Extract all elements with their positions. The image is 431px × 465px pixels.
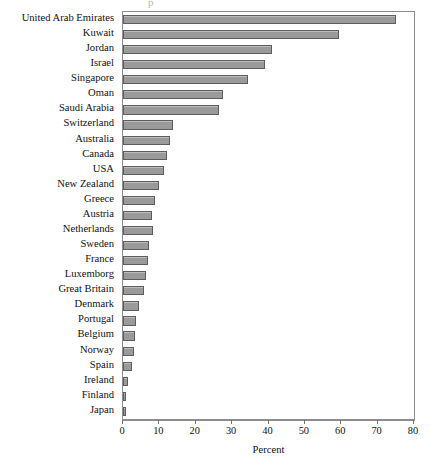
- category-label: Norway: [0, 345, 118, 356]
- axis-tick: [340, 420, 341, 424]
- bar: [123, 151, 167, 160]
- bar: [123, 15, 396, 24]
- category-label: United Arab Emirates: [0, 13, 118, 24]
- axis-tick-label: 40: [248, 425, 288, 436]
- category-label: Saudi Arabia: [0, 103, 118, 114]
- category-label: New Zealand: [0, 179, 118, 190]
- axis-tick: [231, 420, 232, 424]
- bar: [123, 316, 136, 325]
- bar: [123, 241, 149, 250]
- bar: [123, 30, 339, 39]
- category-label: Luxemborg: [0, 269, 118, 280]
- bar: [123, 407, 126, 416]
- axis-tick-label: 80: [393, 425, 431, 436]
- axis-tick-label: 30: [211, 425, 251, 436]
- category-label: Ireland: [0, 375, 118, 386]
- category-label: Great Britain: [0, 284, 118, 295]
- category-label: Switzerland: [0, 118, 118, 129]
- axis-line: [122, 420, 415, 421]
- bar: [123, 211, 152, 220]
- bar-chart: p United Arab EmiratesKuwaitJordanIsrael…: [0, 0, 431, 465]
- category-label: Kuwait: [0, 28, 118, 39]
- bar: [123, 105, 219, 114]
- bar: [123, 45, 272, 54]
- category-label: Israel: [0, 58, 118, 69]
- bar: [123, 286, 144, 295]
- bar: [123, 196, 155, 205]
- category-label: Belgium: [0, 329, 118, 340]
- bar: [123, 331, 135, 340]
- category-label: France: [0, 254, 118, 265]
- bar: [123, 271, 146, 280]
- category-label: Denmark: [0, 299, 118, 310]
- axis-tick-label: 0: [102, 425, 142, 436]
- bar: [123, 120, 173, 129]
- axis-tick-label: 20: [175, 425, 215, 436]
- bar: [123, 75, 248, 84]
- bar: [123, 60, 265, 69]
- bar: [123, 377, 128, 386]
- axis-tick: [377, 420, 378, 424]
- axis-tick: [158, 420, 159, 424]
- bar: [123, 90, 223, 99]
- title-remnant: p: [148, 0, 156, 8]
- axis-tick: [122, 420, 123, 424]
- bar: [123, 362, 132, 371]
- axis-tick-label: 60: [320, 425, 360, 436]
- category-label: Canada: [0, 149, 118, 160]
- bar: [123, 256, 148, 265]
- bar: [123, 181, 159, 190]
- axis-tick: [195, 420, 196, 424]
- value-axis: 01020304050607080: [122, 420, 415, 421]
- category-label: Singapore: [0, 73, 118, 84]
- bar: [123, 301, 139, 310]
- category-label: Sweden: [0, 239, 118, 250]
- category-label: Netherlands: [0, 224, 118, 235]
- category-axis-labels: United Arab EmiratesKuwaitJordanIsraelSi…: [0, 11, 118, 420]
- bar: [123, 136, 170, 145]
- category-label: Greece: [0, 194, 118, 205]
- bar: [123, 226, 153, 235]
- category-label: USA: [0, 164, 118, 175]
- axis-tick: [268, 420, 269, 424]
- bar: [123, 347, 134, 356]
- category-label: Oman: [0, 88, 118, 99]
- bar: [123, 166, 164, 175]
- category-label: Austria: [0, 209, 118, 220]
- axis-tick-label: 70: [357, 425, 397, 436]
- category-label: Japan: [0, 405, 118, 416]
- bar: [123, 392, 126, 401]
- category-label: Portugal: [0, 314, 118, 325]
- x-axis-title: Percent: [122, 444, 415, 455]
- axis-tick: [413, 420, 414, 424]
- category-label: Jordan: [0, 43, 118, 54]
- category-label: Spain: [0, 360, 118, 371]
- category-label: Finland: [0, 390, 118, 401]
- bar-series: [123, 12, 414, 419]
- category-label: Australia: [0, 134, 118, 145]
- axis-tick: [304, 420, 305, 424]
- axis-tick-label: 50: [284, 425, 324, 436]
- axis-tick-label: 10: [138, 425, 178, 436]
